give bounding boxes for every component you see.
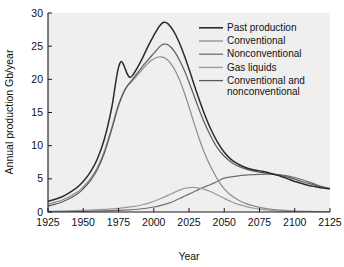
x-tick-label: 1975: [107, 216, 131, 228]
x-axis-title: Year: [178, 250, 200, 262]
plot-area-background: [48, 13, 330, 212]
legend-label-6: nonconventional: [227, 86, 300, 97]
legend-label-1: Past production: [227, 22, 297, 33]
y-axis-title: Annual production Gb/year: [3, 49, 15, 174]
production-line-chart: 0510152025301925195019752000202520502075…: [0, 0, 344, 267]
y-tick-label: 20: [31, 73, 43, 85]
legend-label-4: Gas liquids: [227, 62, 276, 73]
x-tick-label: 2025: [177, 216, 201, 228]
x-tick-label: 2125: [318, 216, 342, 228]
y-tick-label: 15: [31, 106, 43, 118]
legend-label-2: Conventional: [227, 35, 285, 46]
legend-label-3: Nonconventional: [227, 48, 302, 59]
x-tick-label: 2000: [142, 216, 166, 228]
y-tick-label: 5: [37, 172, 43, 184]
legend-label-5: Conventional and: [227, 75, 305, 86]
chart-figure: 0510152025301925195019752000202520502075…: [0, 0, 344, 267]
x-tick-label: 2075: [248, 216, 272, 228]
x-tick-label: 2100: [283, 216, 307, 228]
y-tick-label: 10: [31, 139, 43, 151]
x-tick-label: 1925: [36, 216, 60, 228]
x-tick-label: 1950: [72, 216, 96, 228]
x-tick-label: 2050: [213, 216, 237, 228]
y-tick-label: 25: [31, 40, 43, 52]
y-tick-label: 30: [31, 7, 43, 19]
